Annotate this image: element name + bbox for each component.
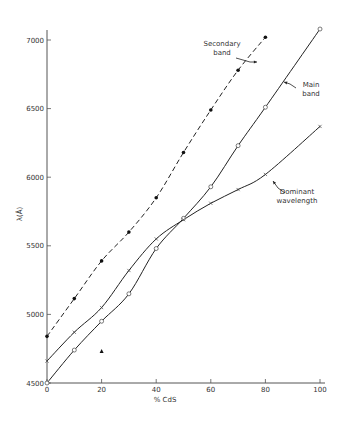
annotation-label: Secondary <box>203 40 240 48</box>
data-point-filled <box>154 196 158 200</box>
data-point-x <box>127 269 130 272</box>
data-point-open <box>263 105 267 109</box>
x-tick-label: 80 <box>261 386 270 394</box>
data-point-x <box>264 173 267 176</box>
data-point-open <box>72 348 76 352</box>
y-tick-label: 6500 <box>26 105 44 113</box>
y-tick-label: 6000 <box>26 174 44 182</box>
data-point-filled <box>45 335 49 339</box>
data-point-x <box>100 306 103 309</box>
series-line-dominant-wavelength <box>47 126 320 361</box>
x-tick-label: 20 <box>97 386 106 394</box>
data-point-open <box>154 247 158 251</box>
y-axis-label: λ(Å) <box>15 207 24 222</box>
data-point-open <box>318 27 322 31</box>
data-point-filled <box>182 151 186 155</box>
data-point-x <box>73 331 76 334</box>
data-point-open <box>45 381 49 385</box>
chart-container: 450050005500600065007000020406080100 Sec… <box>0 0 348 421</box>
y-tick-label: 7000 <box>26 37 44 45</box>
data-point-filled <box>127 230 131 234</box>
x-tick-label: 100 <box>313 386 326 394</box>
arrowhead-icon <box>284 82 287 85</box>
data-point-open <box>127 292 131 296</box>
data-point-open <box>209 185 213 189</box>
data-point-filled <box>73 297 77 301</box>
data-point-open <box>100 319 104 323</box>
arrowhead-icon <box>254 60 257 63</box>
x-axis-label: % CdS <box>154 396 177 404</box>
x-tick-label: 0 <box>45 386 49 394</box>
y-tick-label: 4500 <box>26 380 44 388</box>
data-point-filled <box>100 259 104 263</box>
series-markers <box>45 27 322 385</box>
annotation-label: Dominant <box>280 188 315 196</box>
series-line-secondary-band <box>47 37 265 336</box>
arrowhead-icon <box>273 181 276 184</box>
data-point-x <box>237 188 240 191</box>
annotation-label: band <box>213 49 231 57</box>
x-tick-label: 40 <box>152 386 161 394</box>
x-tick-label: 60 <box>206 386 215 394</box>
series-line-main-band <box>47 29 320 383</box>
data-point-x <box>209 202 212 205</box>
y-tick-label: 5500 <box>26 242 44 250</box>
data-point-filled <box>209 108 213 112</box>
line-chart: 450050005500600065007000020406080100 Sec… <box>0 0 348 421</box>
data-point-filled <box>236 68 240 72</box>
annotations: SecondarybandMainbandDominantwavelength <box>203 40 319 205</box>
data-point-x <box>155 237 158 240</box>
series-lines <box>47 29 320 383</box>
data-point-filled <box>264 35 268 39</box>
y-tick-label: 5000 <box>26 311 44 319</box>
annotation-label: band <box>302 90 320 98</box>
data-point-x <box>318 125 321 128</box>
data-point-open <box>236 144 240 148</box>
annotation-label: Main <box>303 81 320 89</box>
outlier-triangle <box>100 349 104 353</box>
annotation-label: wavelength <box>277 197 318 205</box>
